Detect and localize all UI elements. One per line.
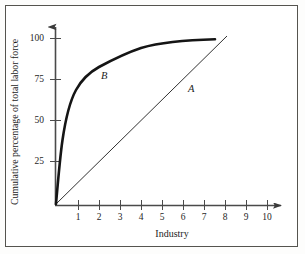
y-axis-title: Cumulative percentage of total labor for…	[9, 39, 20, 205]
x-axis-title: Industry	[155, 228, 188, 239]
x-tick-label-6: 6	[181, 212, 186, 222]
x-tick-label-1: 1	[76, 212, 81, 222]
series-a-line	[56, 36, 227, 204]
x-tick-label-8: 8	[223, 212, 228, 222]
x-tick-label-3: 3	[118, 212, 123, 222]
x-tick-label-7: 7	[202, 212, 207, 222]
y-tick-label-75: 75	[22, 74, 44, 84]
series-b-curve	[56, 39, 215, 204]
y-tick-label-50: 50	[22, 115, 44, 125]
y-tick-label-100: 100	[22, 33, 44, 43]
x-tick-label-10: 10	[262, 212, 272, 222]
x-tick-label-2: 2	[97, 212, 102, 222]
chart-figure: 100 75 50 25 1 2 3 4 5 6 7 8 9 10 Indust…	[0, 0, 305, 254]
plot-canvas	[0, 0, 305, 254]
x-tick-label-4: 4	[139, 212, 144, 222]
y-tick-label-25: 25	[22, 156, 44, 166]
x-tick-label-5: 5	[160, 212, 165, 222]
x-tick-label-9: 9	[244, 212, 249, 222]
curve-label-a: A	[188, 83, 194, 94]
curve-label-b: B	[101, 70, 107, 81]
